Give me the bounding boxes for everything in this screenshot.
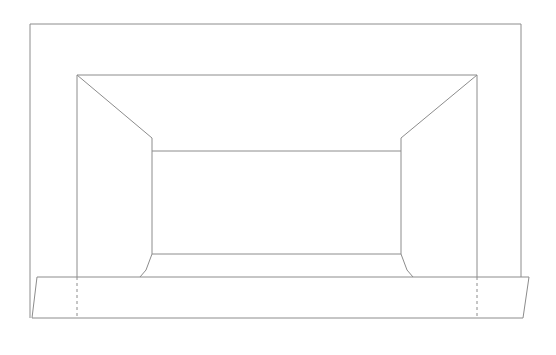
board-right-fold-edge (401, 138, 413, 277)
construction-diagram (0, 0, 556, 355)
outer-frame-outline (30, 24, 521, 318)
board-layer-group (140, 138, 413, 277)
diagram-canvas (0, 0, 556, 355)
outer-fabric-frame (30, 24, 521, 318)
miter-diagonal-right (401, 75, 477, 138)
calico-layer-group (77, 75, 477, 277)
band-outline (32, 277, 529, 318)
board-left-fold-edge (140, 138, 152, 277)
miter-diagonal-left (77, 75, 152, 138)
herringbone-band-group (32, 277, 529, 318)
